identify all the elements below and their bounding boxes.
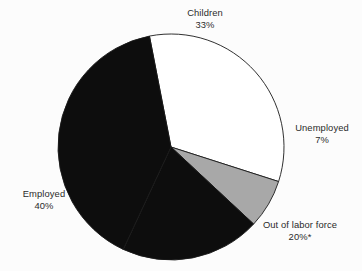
pie-label-children-value: 33% — [195, 19, 214, 30]
pie-label-employed-value: 40% — [34, 200, 53, 211]
pie-label-out-of-labor-force-name: Out of labor force — [263, 219, 337, 230]
pie-label-unemployed-name: Unemployed — [295, 122, 349, 133]
pie-chart-container: Children 33% Unemployed 7% Out of labor … — [0, 0, 362, 271]
pie-label-out-of-labor-force: Out of labor force 20%* — [263, 219, 337, 242]
pie-label-out-of-labor-force-value: 20%* — [289, 231, 312, 242]
pie-label-children-name: Children — [187, 7, 223, 18]
pie-slices-group — [58, 34, 284, 260]
pie-label-unemployed-value: 7% — [315, 134, 329, 145]
pie-chart-svg: Children 33% Unemployed 7% Out of labor … — [0, 0, 362, 271]
pie-label-unemployed: Unemployed 7% — [295, 122, 349, 145]
pie-label-employed-name: Employed — [23, 188, 66, 199]
pie-label-children: Children 33% — [187, 7, 223, 30]
pie-label-employed: Employed 40% — [23, 188, 66, 211]
